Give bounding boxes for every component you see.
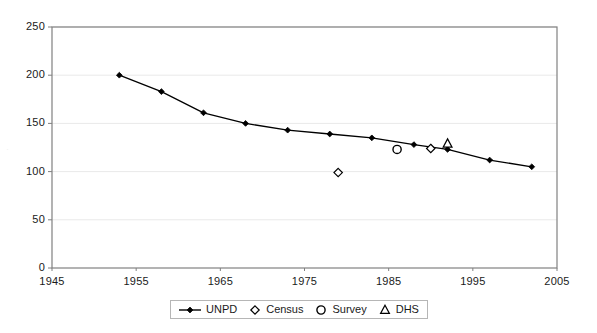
legend-item-unpd[interactable]: UNPD [173,304,243,316]
legend-marker-survey [315,304,327,316]
legend-marker-census [249,304,261,316]
legend-label-unpd: UNPD [206,304,237,315]
datapoint-census-0 [334,168,342,176]
axis-frame [48,27,557,271]
datapoint-unpd-7 [411,142,417,148]
plot-border [52,27,557,268]
x-axis-label-1945: 1945 [30,275,74,287]
datapoint-unpd-1 [159,89,165,95]
datapoint-unpd-4 [285,127,291,133]
datapoint-unpd-10 [529,164,535,170]
x-axis-label-2005: 2005 [535,275,579,287]
datapoint-unpd-9 [487,157,493,163]
series-line-unpd [119,75,531,167]
datapoint-census-1 [427,144,435,152]
legend-marker-dhs [379,304,391,316]
legend-symbol-dhs [380,305,389,313]
y-axis-label-200: 200 [8,68,45,80]
datapoint-unpd-5 [327,131,333,137]
legend-item-census[interactable]: Census [243,304,309,316]
series-lines [119,75,531,167]
gridlines [52,27,557,220]
y-axis-label-150: 150 [8,116,45,128]
x-axis-label-1995: 1995 [451,275,495,287]
datapoint-survey-0 [393,145,401,153]
y-axis-label-50: 50 [8,213,45,225]
datapoint-unpd-3 [243,121,249,127]
datapoint-unpd-0 [116,72,122,78]
legend-item-dhs[interactable]: DHS [373,304,425,316]
legend-symbol-census [251,305,259,313]
series-markers [116,72,534,176]
y-axis-label-0: 0 [8,261,45,273]
x-axis-label-1955: 1955 [114,275,158,287]
legend-label-survey: Survey [332,304,366,315]
x-axis-label-1975: 1975 [283,275,327,287]
legend-symbol-survey [317,305,325,313]
x-axis-label-1965: 1965 [198,275,242,287]
legend-marker-unpd [179,304,201,316]
legend-item-survey[interactable]: Survey [309,304,372,316]
datapoint-unpd-6 [369,135,375,141]
chart-legend: UNPDCensusSurveyDHS [170,300,428,319]
y-axis-label-250: 250 [8,20,45,32]
chart-container: 050100150200250 194519551965197519851995… [0,0,597,333]
datapoint-dhs-0 [443,139,452,147]
legend-label-dhs: DHS [396,304,419,315]
legend-symbol-unpd [187,307,193,313]
datapoint-unpd-2 [201,110,207,116]
y-axis-label-100: 100 [8,165,45,177]
legend-label-census: Census [266,304,303,315]
x-axis-label-1985: 1985 [367,275,411,287]
